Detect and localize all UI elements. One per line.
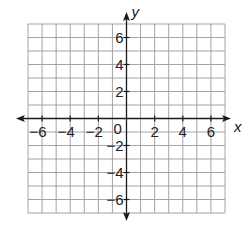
x-tick-label: −4: [58, 123, 75, 140]
y-tick-label: 4: [115, 56, 123, 73]
y-tick-label: −4: [106, 164, 123, 181]
x-tick-label: −6: [30, 123, 47, 140]
x-tick-label: −2: [86, 123, 103, 140]
coordinate-plane: −6−4−2246−6−4−2246 x y 0: [0, 0, 243, 229]
x-tick-label: 2: [150, 123, 158, 140]
x-tick-label: 6: [207, 123, 215, 140]
axes: [16, 12, 231, 221]
y-tick-label: −6: [106, 191, 123, 208]
x-axis-label: x: [233, 118, 242, 135]
y-tick-label: 2: [115, 83, 123, 100]
y-axis-label: y: [131, 3, 141, 20]
origin-label: 0: [114, 120, 122, 137]
y-tick-label: 6: [115, 29, 123, 46]
y-tick-label: −2: [106, 137, 123, 154]
x-tick-label: 4: [179, 123, 187, 140]
